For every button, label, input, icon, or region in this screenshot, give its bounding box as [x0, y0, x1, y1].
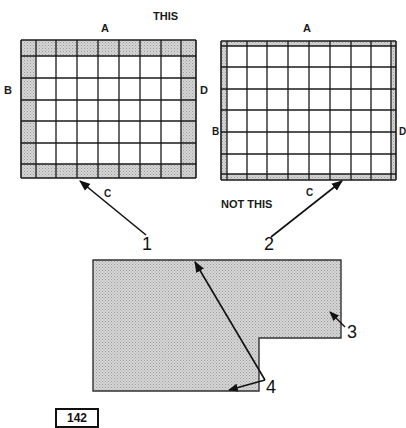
l-shaped-area — [93, 260, 341, 391]
caption-this: THIS — [153, 10, 178, 22]
callout-1-label: 1 — [142, 234, 152, 254]
plate-number: 142 — [55, 408, 99, 428]
grid-incorrect-label-top: A — [303, 22, 311, 34]
border-col-left — [21, 40, 36, 178]
caption-not-this: NOT THIS — [221, 198, 272, 210]
grid-correct-label-right: D — [200, 84, 208, 96]
callout-3-label: 3 — [347, 322, 357, 342]
grid-correct — [21, 40, 196, 178]
grid-incorrect-label-right: D — [399, 126, 406, 137]
grid-incorrect — [221, 41, 396, 180]
border-row-top — [21, 40, 196, 56]
callout-4-label: 4 — [266, 377, 276, 397]
callout-2-label: 2 — [264, 234, 274, 254]
grid-incorrect-label-left: B — [212, 126, 219, 137]
border-row-bottom — [21, 164, 196, 178]
callout-1-arrow — [80, 181, 146, 235]
grid-correct-label-top: A — [101, 22, 109, 34]
grid-incorrect-label-bottom: C — [306, 187, 313, 198]
grid-correct-label-left: B — [4, 84, 12, 96]
border-col-right — [181, 40, 196, 178]
grid-correct-label-bottom: C — [104, 188, 111, 199]
